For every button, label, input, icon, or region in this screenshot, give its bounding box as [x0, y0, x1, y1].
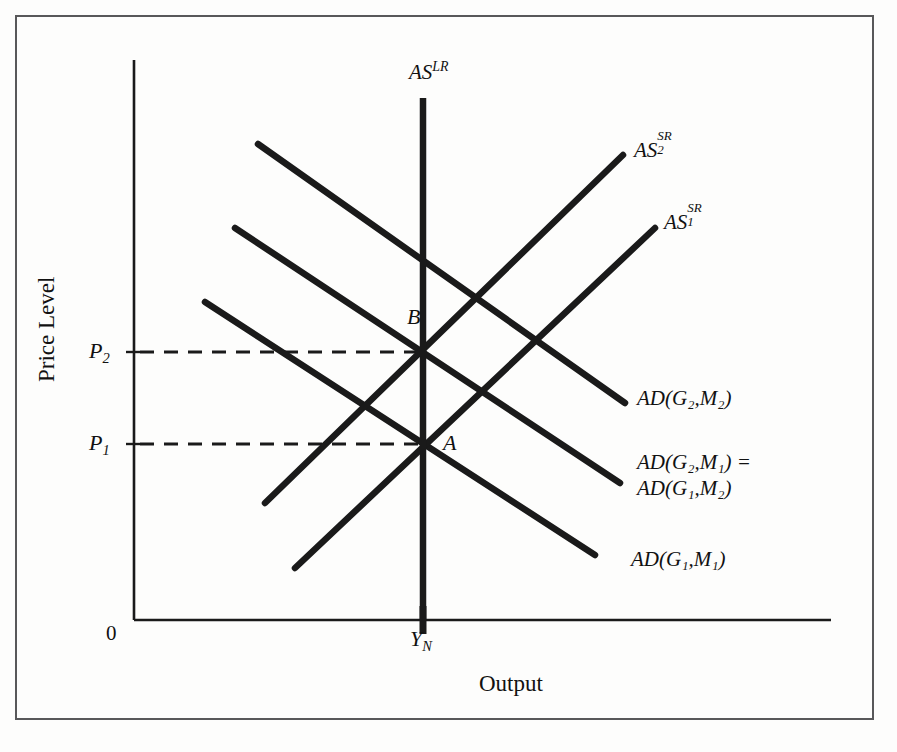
- as-sr-1-affixes: SR1: [687, 208, 702, 229]
- y-tick-p1-sub: 1: [102, 442, 109, 458]
- point-label-a: A: [443, 432, 456, 454]
- y-tick-p2-sub: 2: [102, 350, 109, 366]
- as-sr-2-sup: SR: [657, 129, 671, 142]
- x-tick-label-base: Y: [410, 626, 422, 651]
- as-lr-base: AS: [409, 60, 432, 84]
- x-axis-title: Output: [479, 672, 543, 695]
- curve-label-ad-g2-m1: AD(G₂,M₁) = AD(G₁,M₂): [637, 450, 751, 501]
- ad-mid-line-2: AD(G₁,M₂): [637, 476, 751, 502]
- as-sr-1-base: AS: [664, 210, 687, 234]
- curve-label-as-sr-2: ASSR2: [634, 136, 672, 161]
- y-tick-label-p1: P1: [89, 432, 110, 458]
- y-tick-p2-base: P: [89, 338, 102, 363]
- as-sr-1-sub: 1: [687, 215, 694, 228]
- figure-canvas: Price Level Output 0 YN P2 P1 ASLR ASSR2…: [0, 0, 897, 752]
- as-lr-sup: LR: [432, 59, 448, 74]
- ad-mid-line-1: AD(G₂,M₁) =: [637, 450, 751, 476]
- origin-label: 0: [106, 623, 117, 644]
- curve-label-as-sr-1: ASSR1: [664, 208, 702, 233]
- point-label-b: B: [407, 306, 420, 328]
- as-sr-2-base: AS: [634, 138, 657, 162]
- y-tick-p1-base: P: [89, 430, 102, 455]
- curve-label-as-lr: ASLR: [409, 60, 449, 83]
- y-tick-label-p2: P2: [89, 340, 110, 366]
- curve-label-ad-g2-m2: AD(G₂,M₂): [637, 388, 732, 409]
- curve-label-ad-g1-m1: AD(G₁,M₁): [631, 549, 726, 570]
- x-tick-label-yn: YN: [410, 628, 432, 654]
- y-axis-title: Price Level: [34, 277, 60, 382]
- as-sr-2-sub: 2: [657, 143, 664, 156]
- as-sr-2-affixes: SR2: [657, 136, 672, 157]
- as-sr-1-sup: SR: [687, 201, 701, 214]
- diagram-svg: [0, 0, 897, 752]
- x-tick-label-sub: N: [422, 638, 432, 654]
